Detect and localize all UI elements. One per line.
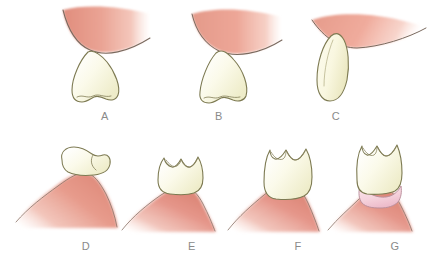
panel-label-f: F (288, 240, 308, 252)
tooth-crown-g (357, 145, 402, 194)
tooth-crown-b (200, 51, 247, 103)
panel-label-b: B (209, 110, 229, 122)
panel-d-illustration (14, 147, 118, 228)
tooth-crown-d (62, 147, 111, 175)
panel-g-illustration (326, 145, 413, 232)
tooth-eruption-figure: A B C D E F G (0, 0, 447, 263)
tooth-crown-a (72, 51, 119, 102)
tooth-crown-c (317, 34, 348, 101)
panel-label-d: D (76, 240, 96, 252)
gum-tissue-d (14, 173, 118, 228)
tooth-crown-f (264, 149, 312, 199)
panel-c-illustration (312, 14, 426, 101)
panel-label-c: C (326, 110, 346, 122)
panel-f-illustration (226, 149, 320, 232)
panel-label-e: E (182, 240, 202, 252)
panel-label-g: G (385, 240, 405, 252)
panel-a-illustration (62, 5, 150, 102)
panel-label-a: A (95, 110, 115, 122)
illustration-canvas (0, 0, 447, 263)
panel-b-illustration (192, 9, 282, 103)
panel-e-illustration (120, 157, 216, 232)
